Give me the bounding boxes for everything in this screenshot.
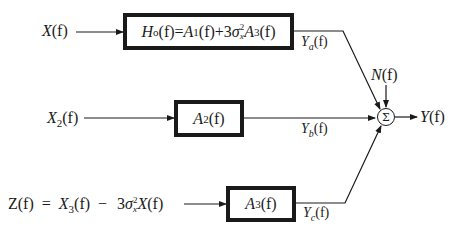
a1-arg: (f) bbox=[199, 23, 215, 41]
a2-block: A2(f) bbox=[174, 100, 244, 137]
sigma-sum-icon: Σ bbox=[382, 111, 390, 124]
x-symbol: X bbox=[137, 195, 147, 212]
x-symbol: X bbox=[42, 22, 52, 39]
input-x-label: X(f) bbox=[42, 23, 68, 39]
x-arg: (f) bbox=[147, 195, 163, 212]
signal-ya-label: Ya(f) bbox=[301, 35, 328, 52]
yb-symbol: Y bbox=[301, 121, 309, 136]
x3-symbol: X bbox=[59, 195, 69, 212]
noise-input-label: N(f) bbox=[371, 67, 398, 83]
x-arg: (f) bbox=[52, 22, 68, 39]
n-symbol: N bbox=[371, 66, 382, 83]
block-diagram: X(f) Ho(f)=A1(f)+3σ2xA3(f) Ya(f) N(f) X2… bbox=[0, 0, 458, 236]
equals-sign: = bbox=[175, 23, 184, 41]
signal-yc-label: Yc(f) bbox=[303, 206, 329, 223]
a3-symbol: A bbox=[244, 23, 254, 41]
h-arg: (f) bbox=[159, 23, 175, 41]
input-x2-label: X2(f) bbox=[47, 110, 78, 129]
ya-arg: (f) bbox=[314, 34, 328, 49]
sigma-symbol: σ bbox=[232, 23, 240, 41]
a3-block: A3(f) bbox=[226, 186, 296, 222]
a2-symbol: A bbox=[193, 110, 203, 128]
a2-arg: (f) bbox=[209, 110, 225, 128]
x2-arg: (f) bbox=[62, 109, 78, 126]
plus-sign: + bbox=[215, 23, 224, 41]
y-symbol: Y bbox=[420, 108, 429, 125]
summing-junction: Σ bbox=[377, 108, 395, 126]
h0-block: Ho(f)=A1(f)+3σ2xA3(f) bbox=[123, 13, 294, 50]
a3-arg: (f) bbox=[260, 23, 276, 41]
z-symbol: Z bbox=[8, 195, 18, 212]
a1-symbol: A bbox=[184, 23, 194, 41]
a3-symbol: A bbox=[245, 195, 255, 213]
y-arg: (f) bbox=[429, 108, 445, 125]
ya-symbol: Y bbox=[301, 34, 309, 49]
z-arg: (f) bbox=[18, 195, 34, 212]
sigma-symbol: σ bbox=[125, 195, 133, 212]
signal-yb-label: Yb(f) bbox=[301, 122, 328, 139]
coefficient: 3 bbox=[117, 195, 125, 212]
a3-arg: (f) bbox=[261, 195, 277, 213]
yc-arg: (f) bbox=[315, 205, 329, 220]
x3-arg: (f) bbox=[74, 195, 90, 212]
output-y-label: Y(f) bbox=[420, 109, 445, 125]
h-symbol: H bbox=[141, 23, 153, 41]
yb-arg: (f) bbox=[314, 121, 328, 136]
minus-sign: − bbox=[98, 195, 107, 212]
coefficient: 3 bbox=[224, 23, 232, 41]
equals-sign: = bbox=[42, 195, 51, 212]
x2-symbol: X bbox=[47, 109, 57, 126]
n-arg: (f) bbox=[382, 66, 398, 83]
yc-symbol: Y bbox=[303, 205, 311, 220]
input-z-expression: Z(f) = X3(f) −3σ2xX(f) bbox=[8, 196, 163, 215]
